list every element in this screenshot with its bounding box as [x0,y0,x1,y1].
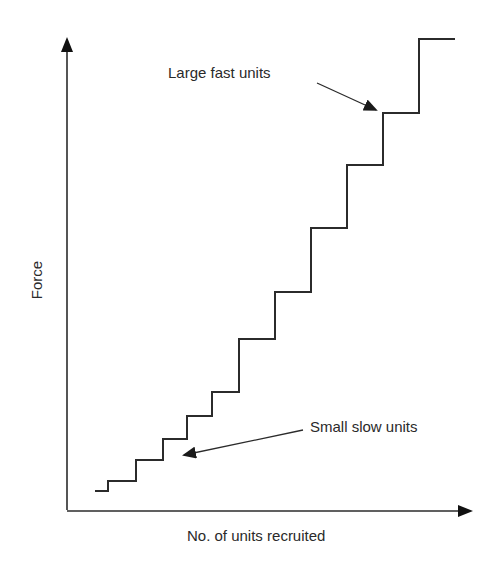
small-units-arrow-icon [184,430,303,455]
y-axis [61,37,73,510]
x-axis-label: No. of units recruited [187,527,325,544]
large-units-arrow-icon [317,83,376,110]
large-fast-units-label: Large fast units [168,64,271,81]
annotation-small-slow-units: Small slow units [184,418,418,455]
recruitment-diagram: Large fast units Small slow units No. of… [0,0,504,563]
x-axis-arrow-icon [458,505,473,517]
small-slow-units-label: Small slow units [310,418,418,435]
y-axis-arrow-icon [61,37,73,52]
annotation-large-fast-units: Large fast units [168,64,376,110]
x-axis [67,505,473,517]
y-axis-label: Force [28,261,45,299]
